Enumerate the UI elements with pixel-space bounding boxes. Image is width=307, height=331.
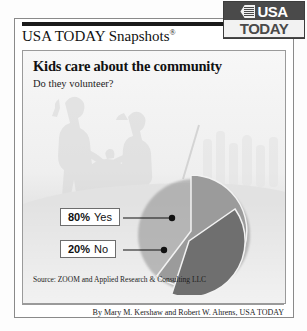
callout-no-percent: 20% [68, 243, 90, 255]
usatoday-globe-icon [240, 5, 255, 18]
logo-top-row: USA [224, 4, 304, 20]
source-note: Source: ZOOM and Applied Research & Cons… [33, 275, 206, 284]
callout-yes: 80% Yes [60, 208, 120, 226]
byline: By Mary M. Kershaw and Robert W. Ahrens,… [22, 308, 284, 317]
logo-usa-text: USA [257, 4, 287, 19]
callout-no: 20% No [60, 240, 116, 258]
usa-today-logo: USA TODAY [224, 2, 304, 38]
brand-title-text: USA TODAY Snapshots [22, 28, 170, 44]
byline-divider [22, 304, 284, 305]
registered-mark: ® [170, 28, 176, 37]
chart-panel: Kids care about the community Do they vo… [22, 50, 286, 304]
logo-today-text: TODAY [240, 21, 288, 36]
snapshot-infographic: USA TODAY USA TODAY Snapshots® Kids care… [0, 0, 307, 331]
callout-no-label: No [94, 243, 108, 255]
page-title: USA TODAY Snapshots® [22, 28, 252, 48]
logo-bottom-row: TODAY [224, 20, 304, 37]
callout-yes-label: Yes [94, 211, 112, 223]
callout-yes-percent: 80% [68, 211, 90, 223]
